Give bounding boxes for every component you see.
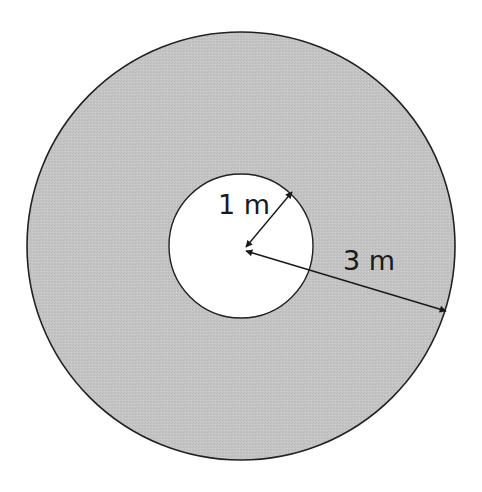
inner-radius-label: 1 m	[218, 189, 270, 220]
annulus-diagram: 1 m 3 m	[0, 0, 482, 492]
outer-radius-label: 3 m	[343, 245, 395, 276]
